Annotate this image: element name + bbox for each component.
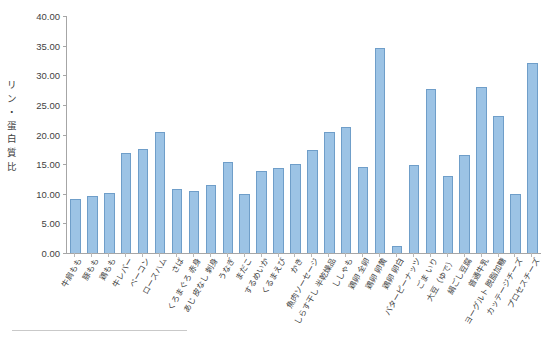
y-axis-tick-label: 40.00: [36, 11, 60, 22]
x-axis-category-label: かき: [289, 257, 305, 275]
y-axis-tick-label: 15.00: [36, 159, 60, 170]
bar: [104, 193, 114, 253]
x-axis-category-labels: 牛肩もも豚もも鶏もも牛レバーベーコンロースハムさばくろまぐろ 赤身あじ 皮なし …: [66, 257, 540, 337]
bar-slot: [439, 16, 456, 253]
y-axis-tick-label: 10.00: [36, 188, 60, 199]
bar-slot: [490, 16, 507, 253]
bar-slot: [389, 16, 406, 253]
bar: [476, 87, 486, 253]
bar: [443, 176, 453, 253]
footer-divider: [12, 330, 187, 331]
bar: [324, 132, 334, 253]
bar-slot: [507, 16, 524, 253]
bar-slot: [304, 16, 321, 253]
y-axis-tick-label: 35.00: [36, 40, 60, 51]
bar: [121, 153, 131, 253]
bar-slot: [253, 16, 270, 253]
y-axis-tick-label: 20.00: [36, 129, 60, 140]
bar-slot: [456, 16, 473, 253]
bar: [493, 116, 503, 253]
bar: [70, 199, 80, 254]
bar-slot: [118, 16, 135, 253]
y-axis-tick-label: 25.00: [36, 99, 60, 110]
bar-slot: [355, 16, 372, 253]
y-axis-tick-mark: [63, 75, 67, 76]
bar-slot: [236, 16, 253, 253]
bar-slot: [473, 16, 490, 253]
bar: [87, 196, 97, 253]
y-axis-tick-mark: [63, 194, 67, 195]
bar: [189, 191, 199, 253]
bar: [409, 165, 419, 253]
y-axis-tick-mark: [63, 46, 67, 47]
phosphorus-protein-ratio-bar-chart: リ ン ・ 蛋 白 質 比 0.005.0010.0015.0020.0025.…: [0, 0, 547, 341]
bar: [206, 185, 216, 253]
bar: [527, 63, 537, 253]
bar: [290, 164, 300, 253]
y-axis-tick-mark: [63, 135, 67, 136]
y-axis-tick-mark: [63, 223, 67, 224]
plot-area: [66, 16, 541, 254]
y-axis-tick-labels: 0.005.0010.0015.0020.0025.0030.0035.0040…: [20, 0, 64, 262]
bar-slot: [84, 16, 101, 253]
bar-slot: [152, 16, 169, 253]
bar-slot: [135, 16, 152, 253]
bar: [307, 150, 317, 253]
bar-slot: [287, 16, 304, 253]
bar: [223, 162, 233, 253]
bar: [358, 167, 368, 254]
bar-slot: [67, 16, 84, 253]
bar: [392, 246, 402, 253]
bar: [375, 48, 385, 253]
bar-series: [67, 16, 541, 253]
bar: [172, 189, 182, 253]
bar: [459, 155, 469, 253]
y-axis-tick-label: 0.00: [42, 248, 61, 259]
bar: [138, 149, 148, 253]
bar: [239, 194, 249, 253]
y-axis-tick-mark: [63, 164, 67, 165]
bar: [510, 194, 520, 253]
bar-slot: [185, 16, 202, 253]
bar-slot: [169, 16, 186, 253]
bar-slot: [321, 16, 338, 253]
bar-slot: [372, 16, 389, 253]
bar-slot: [524, 16, 541, 253]
bar: [426, 89, 436, 253]
bar-slot: [101, 16, 118, 253]
bar: [256, 171, 266, 253]
y-axis-tick-label: 5.00: [42, 218, 61, 229]
y-axis-title: リ ン ・ 蛋 白 質 比: [4, 78, 20, 173]
y-axis-tick-mark: [63, 16, 67, 17]
bar-slot: [422, 16, 439, 253]
x-axis-category-label: 牛肩もも: [60, 257, 84, 289]
bar-slot: [405, 16, 422, 253]
y-axis-tick-mark: [63, 105, 67, 106]
bar-slot: [202, 16, 219, 253]
bar-slot: [338, 16, 355, 253]
bar: [273, 168, 283, 253]
y-axis-tick-label: 30.00: [36, 70, 60, 81]
bar: [155, 132, 165, 253]
x-axis-category-label: さば: [170, 257, 186, 275]
bar: [341, 127, 351, 253]
bar-slot: [270, 16, 287, 253]
bar-slot: [219, 16, 236, 253]
